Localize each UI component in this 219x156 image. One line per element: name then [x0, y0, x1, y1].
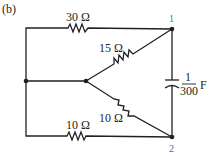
resistor-10-ohm-diag [86, 81, 172, 137]
label-30-ohm: 30 Ω [66, 10, 90, 24]
resistor-15-ohm [86, 29, 172, 81]
left-node [24, 79, 29, 84]
label-15-ohm: 15 Ω [99, 41, 123, 55]
node-1 [170, 27, 175, 32]
circuit-diagram: (b) 30 Ω 10 Ω 15 Ω 10 Ω 1 300 F 1 2 [0, 0, 219, 156]
cap-denominator: 300 [180, 84, 198, 98]
label-10-ohm-diag: 10 Ω [99, 111, 123, 125]
center-node [84, 79, 89, 84]
node-2 [170, 135, 175, 140]
figure-label: (b) [2, 2, 16, 16]
node-2-label: 2 [169, 143, 174, 154]
capacitor [165, 29, 179, 137]
label-10-ohm-bottom: 10 Ω [66, 118, 90, 132]
node-1-label: 1 [169, 13, 174, 24]
cap-unit: F [200, 78, 207, 92]
cap-numerator: 1 [185, 70, 191, 84]
